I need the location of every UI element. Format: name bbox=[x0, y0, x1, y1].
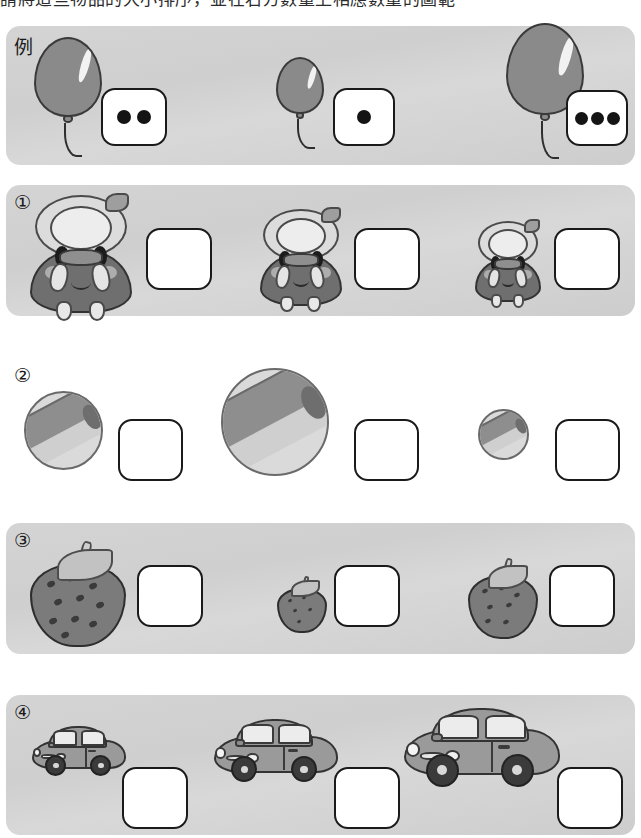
dice-dot bbox=[357, 110, 371, 124]
row-4-label: ④ bbox=[14, 701, 31, 723]
beach-ball-icon bbox=[221, 368, 329, 476]
doll-icon bbox=[26, 195, 136, 317]
doll-icon bbox=[256, 209, 346, 309]
strawberry-icon bbox=[277, 579, 327, 633]
instruction-bar: 請將這些物品的大小排序，並在右方數量上相應數量的圖範 bbox=[0, 0, 641, 14]
example-item-1 bbox=[34, 37, 106, 159]
example-row: 例 bbox=[6, 26, 635, 165]
example-row-label: 例 bbox=[14, 32, 33, 59]
car-icon bbox=[404, 703, 560, 785]
strawberry-icon bbox=[468, 563, 538, 639]
doll-icon bbox=[472, 221, 544, 305]
example-item-2 bbox=[276, 57, 330, 155]
row-3-answer-box-2[interactable] bbox=[334, 565, 400, 627]
example-answer-box-2 bbox=[333, 88, 395, 146]
row-1-answer-box-2[interactable] bbox=[354, 228, 420, 290]
row-1-answer-box-3[interactable] bbox=[554, 228, 620, 290]
row-2-beach-balls: ② bbox=[6, 358, 635, 498]
example-answer-box-1 bbox=[101, 88, 167, 146]
row-3-strawberries: ③ bbox=[6, 523, 635, 654]
row-3-answer-box-1[interactable] bbox=[137, 565, 203, 627]
car-icon bbox=[214, 715, 338, 781]
row-3-answer-box-3[interactable] bbox=[549, 565, 615, 627]
balloon-icon bbox=[276, 57, 330, 155]
row-3-label: ③ bbox=[14, 529, 31, 551]
balloon-icon bbox=[34, 37, 106, 159]
dice-dot bbox=[117, 110, 131, 124]
example-answer-box-3 bbox=[566, 90, 628, 146]
row-1-answer-box-1[interactable] bbox=[146, 228, 212, 290]
row-4-answer-box-2[interactable] bbox=[334, 767, 400, 829]
row-2-answer-box-3[interactable] bbox=[555, 419, 620, 481]
strawberry-icon bbox=[30, 547, 126, 647]
car-icon bbox=[32, 723, 126, 775]
row-1-dolls: ① bbox=[6, 185, 635, 316]
dice-dot bbox=[137, 110, 151, 124]
row-2-label: ② bbox=[14, 364, 31, 386]
dice-dot bbox=[591, 112, 604, 125]
row-4-answer-box-3[interactable] bbox=[557, 767, 623, 829]
row-2-answer-box-1[interactable] bbox=[118, 419, 183, 481]
beach-ball-icon bbox=[478, 409, 529, 460]
row-2-answer-box-2[interactable] bbox=[354, 419, 419, 481]
row-1-label: ① bbox=[14, 191, 31, 213]
row-4-answer-box-1[interactable] bbox=[122, 767, 188, 829]
dice-dot bbox=[575, 112, 588, 125]
instruction-text: 請將這些物品的大小排序，並在右方數量上相應數量的圖範 bbox=[0, 0, 641, 10]
dice-dot bbox=[607, 112, 620, 125]
beach-ball-icon bbox=[24, 391, 103, 470]
row-4-cars: ④ bbox=[6, 695, 635, 835]
